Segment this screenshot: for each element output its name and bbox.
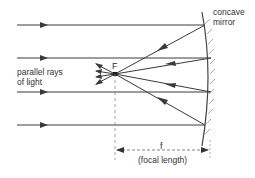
mirror-label-line2: mirror [213,17,245,27]
mirror-label-line1: concave [213,7,245,17]
reflected-ray-3 [115,74,211,92]
concave-mirror-label: concave mirror [213,7,245,27]
focal-point-label: F [112,61,118,71]
arrow-icon [40,122,48,128]
arrow-left-icon [116,147,124,153]
parallel-rays-label: parallel rays of light [17,67,63,87]
arrow-right-icon [201,147,209,153]
arrow-icon [95,74,102,79]
arrow-icon [157,97,168,105]
concave-mirror [202,12,208,146]
arrow-icon [95,69,102,74]
parallel-label-line1: parallel rays [17,67,63,77]
arrow-icon [95,63,103,69]
arrow-icon [40,89,48,95]
arrow-icon [95,79,103,85]
focal-length-symbol: f [160,141,163,151]
focal-length-label: (focal length) [138,155,187,165]
arrow-icon [40,22,48,28]
arrow-icon [40,55,48,61]
reflected-arrowheads [95,43,176,105]
arrow-icon [157,43,168,51]
parallel-label-line2: of light [17,77,63,87]
